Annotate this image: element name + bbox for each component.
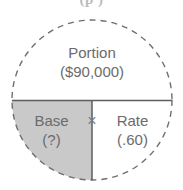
- rate-label: Rate: [101, 112, 164, 129]
- portion-label: Portion: [22, 44, 162, 61]
- base-value: (?): [20, 131, 83, 148]
- rate-value: (.60): [101, 131, 164, 148]
- portion-value: ($90,000): [22, 63, 162, 80]
- percent-circle-diagram: (p ) Portion ($90,000) Base (?) × Rate (…: [0, 0, 183, 190]
- base-label: Base: [20, 112, 83, 129]
- diagram-graphics: [0, 0, 183, 190]
